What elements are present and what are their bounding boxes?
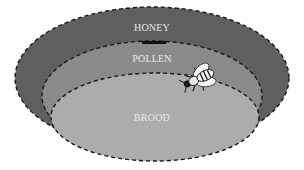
label-brood: BROOD xyxy=(134,112,170,123)
comb-diagram: HONEY POLLEN BROOD xyxy=(0,0,304,170)
label-pollen: POLLEN xyxy=(132,53,172,64)
diagram-canvas: HONEY POLLEN BROOD xyxy=(0,0,304,170)
label-honey: HONEY xyxy=(134,22,170,33)
